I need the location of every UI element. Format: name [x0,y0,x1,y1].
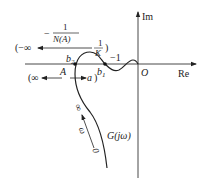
omega-label: ω [77,126,89,135]
curve-label: G(jω) [107,130,131,142]
top-right-num: 1 [98,38,103,48]
omega-zero-label: 0 [90,147,101,155]
top-left-label: (−∞ [15,42,31,54]
real-axis-label: Re [178,68,190,79]
frac-den: N(A) [52,34,71,44]
nyquist-curve [75,52,138,168]
b1-label: b1 [97,66,106,79]
origin-label: O [141,67,148,78]
bottom-right-paren: ) [94,72,97,84]
omega-inf-label: ∞ [73,103,85,112]
frac-num: 1 [63,22,68,32]
top-right-den: K [94,48,102,58]
imag-axis-label: Im [142,11,153,22]
point-A-label: A [59,66,67,77]
nyquist-diagram: Im Re O b2 b1 −1 − 1 N(A) (−∞ 1 K ) (∞ A… [0,0,208,192]
minus-one-label: −1 [110,52,121,63]
diagram-svg: Im Re O b2 b1 −1 − 1 N(A) (−∞ 1 K ) (∞ A… [0,0,208,192]
top-right-paren: ) [105,42,108,54]
bottom-left-label: (∞ [28,72,38,84]
neg-sign: − [44,28,50,39]
bottom-right-label: a [87,72,92,83]
point-b1 [103,62,107,66]
